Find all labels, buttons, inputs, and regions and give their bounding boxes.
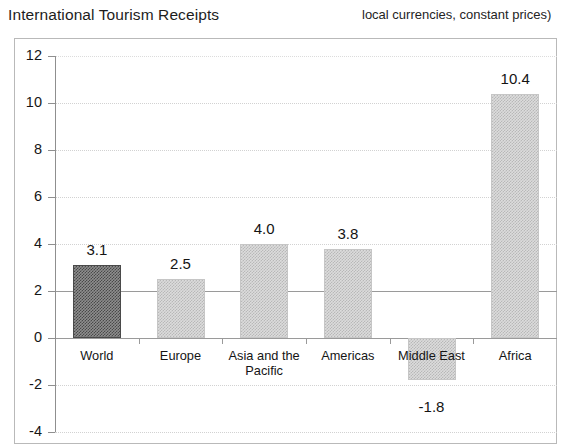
gridline-8: [55, 150, 557, 151]
gridline--4: [55, 432, 557, 433]
bar-americas: [324, 249, 372, 338]
y-axis-label: -4: [2, 423, 42, 439]
x-axis-label-americas: Americas: [306, 349, 390, 364]
chart-title: International Tourism Receipts: [8, 6, 219, 24]
y-tick--2: [48, 385, 55, 386]
bar-world: [73, 265, 121, 338]
x-axis-label-europe: Europe: [139, 349, 223, 364]
bar-europe: [157, 279, 205, 338]
value-label-europe: 2.5: [141, 255, 221, 272]
bar-asia-and-the-pacific: [240, 244, 288, 338]
gridline-2: [55, 291, 557, 292]
value-label-middle-east: -1.8: [392, 398, 472, 415]
x-tick: [390, 338, 391, 344]
y-tick-8: [48, 150, 55, 151]
gridline--2: [55, 385, 557, 386]
x-axis-label-africa: Africa: [473, 349, 557, 364]
x-axis-label-middle-east: Middle East: [390, 349, 474, 364]
x-axis-label-asia-and-the-pacific: Asia and the Pacific: [222, 349, 306, 378]
gridline-10: [55, 103, 557, 104]
y-tick-2: [48, 291, 55, 292]
gridline-12: [55, 56, 557, 57]
y-axis-label: 0: [2, 329, 42, 345]
x-tick: [473, 338, 474, 344]
y-axis-label: 8: [2, 141, 42, 157]
value-label-americas: 3.8: [308, 225, 388, 242]
y-tick-12: [48, 56, 55, 57]
x-tick: [222, 338, 223, 344]
y-axis-label: -2: [2, 376, 42, 392]
y-axis-label: 4: [2, 235, 42, 251]
gridline-6: [55, 197, 557, 198]
y-tick-6: [48, 197, 55, 198]
x-axis-label-world: World: [55, 349, 139, 364]
chart-screenshot: International Tourism Receipts local cur…: [0, 0, 575, 447]
y-axis-label: 2: [2, 282, 42, 298]
x-tick: [306, 338, 307, 344]
chart-subtitle: local currencies, constant prices): [362, 7, 551, 22]
y-tick-0: [48, 338, 55, 339]
value-label-world: 3.1: [57, 241, 137, 258]
x-tick: [139, 338, 140, 344]
chart-header: International Tourism Receipts local cur…: [0, 0, 575, 38]
y-tick-4: [48, 244, 55, 245]
y-axis-label: 6: [2, 188, 42, 204]
y-tick--4: [48, 432, 55, 433]
y-axis-label: 12: [2, 47, 42, 63]
y-tick-10: [48, 103, 55, 104]
y-axis-label: 10: [2, 94, 42, 110]
value-label-asia-and-the-pacific: 4.0: [224, 220, 304, 237]
value-label-africa: 10.4: [475, 70, 555, 87]
bar-africa: [491, 94, 539, 338]
